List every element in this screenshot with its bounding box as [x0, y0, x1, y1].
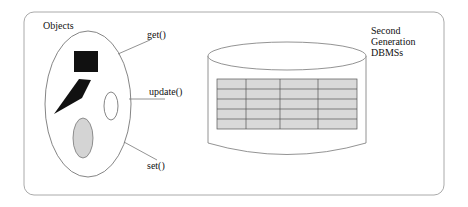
black-parallelogram-object	[54, 79, 91, 114]
white-ellipse-object	[104, 92, 118, 120]
set-method-label: set()	[147, 160, 165, 171]
dbms-label-line-2: Generation	[371, 36, 415, 47]
update-method-label: update()	[149, 86, 182, 97]
get-connector-line	[118, 40, 150, 54]
relational-table-grid	[217, 79, 357, 129]
get-method-label: get()	[147, 29, 166, 40]
black-square-object	[74, 51, 98, 72]
objects-label: Objects	[43, 20, 74, 31]
dbms-label-line-1: Second	[371, 25, 400, 36]
grey-ellipse-object	[73, 118, 93, 158]
set-connector-line	[124, 142, 157, 160]
dbms-label-line-3: DBMSs	[371, 47, 403, 58]
